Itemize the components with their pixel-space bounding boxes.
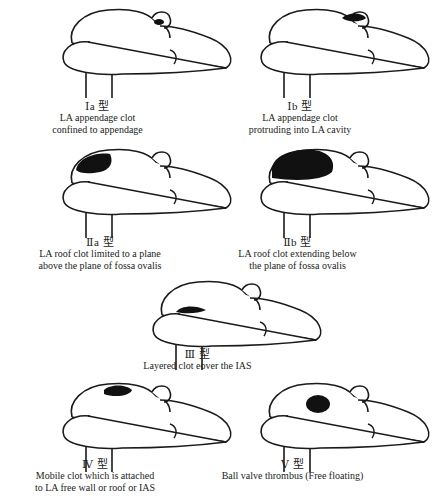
type-label-iii: Ⅲ 型: [110, 348, 285, 360]
description-iv-line1: Mobile clot which is attached: [10, 470, 180, 482]
description-iib-line1: LA roof clot extending below: [210, 248, 385, 260]
type-label-ia: Ⅰa 型: [20, 100, 175, 112]
description-iv-line2: to LA free wall or roof or IAS: [10, 482, 180, 494]
description-ib-line1: LA appendage clot: [220, 112, 380, 124]
description-ia-line1: LA appendage clot: [20, 112, 175, 124]
description-ib-line2: protruding into LA cavity: [220, 124, 380, 136]
heart-diagram-ia: [60, 0, 235, 100]
type-label-iv: Ⅳ 型: [10, 458, 180, 470]
panel-type-iii: [150, 272, 325, 392]
type-label-iib: Ⅱb 型: [210, 236, 385, 248]
type-label-ib: Ⅰb 型: [220, 100, 380, 112]
caption-ia: Ⅰa 型 LA appendage clot confined to appen…: [20, 100, 175, 136]
panel-type-v: [258, 380, 433, 504]
clot-roof-large: [272, 150, 333, 180]
heart-diagram-iib: [258, 140, 433, 240]
description-v-line1: Ball valve thrombus (Free floating): [205, 470, 380, 482]
caption-v: Ⅴ 型 Ball valve thrombus (Free floating): [205, 458, 380, 482]
caption-iv: Ⅳ 型 Mobile clot which is attached to LA …: [10, 458, 180, 494]
caption-iii: Ⅲ 型 Layered clot eover the IAS: [110, 348, 285, 372]
type-label-iia: Ⅱa 型: [10, 236, 190, 248]
caption-ib: Ⅰb 型 LA appendage clot protruding into L…: [220, 100, 380, 136]
caption-iib: Ⅱb 型 LA roof clot extending below the pl…: [210, 236, 385, 272]
clot-appendage-small: [154, 19, 164, 25]
description-ia-line2: confined to appendage: [20, 124, 175, 136]
type-label-v: Ⅴ 型: [205, 458, 380, 470]
description-iia-line2: above the plane of fossa ovalis: [10, 260, 190, 272]
clot-ball-valve: [306, 395, 330, 413]
caption-iia: Ⅱa 型 LA roof clot limited to a plane abo…: [10, 236, 190, 272]
description-iib-line2: the plane of fossa ovalis: [210, 260, 385, 272]
description-iii-line1: Layered clot eover the IAS: [110, 360, 285, 372]
heart-diagram-iia: [60, 140, 235, 240]
heart-diagram-ib: [258, 0, 433, 100]
description-iia-line1: LA roof clot limited to a plane: [10, 248, 190, 260]
